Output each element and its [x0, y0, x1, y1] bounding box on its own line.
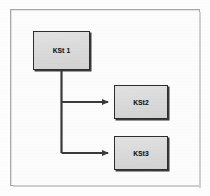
node-kst2[interactable]: KSt2: [114, 85, 168, 119]
figure-page: KSt 1 KSt2 KSt3: [0, 0, 210, 196]
connector-layer: [0, 0, 210, 196]
node-kst3[interactable]: KSt3: [114, 136, 168, 170]
node-kst3-label: KSt3: [133, 149, 149, 156]
node-kst1-label: KSt 1: [53, 47, 71, 54]
diagram-canvas: [0, 0, 210, 196]
node-kst2-label: KSt2: [133, 98, 149, 105]
node-kst1[interactable]: KSt 1: [33, 31, 90, 70]
